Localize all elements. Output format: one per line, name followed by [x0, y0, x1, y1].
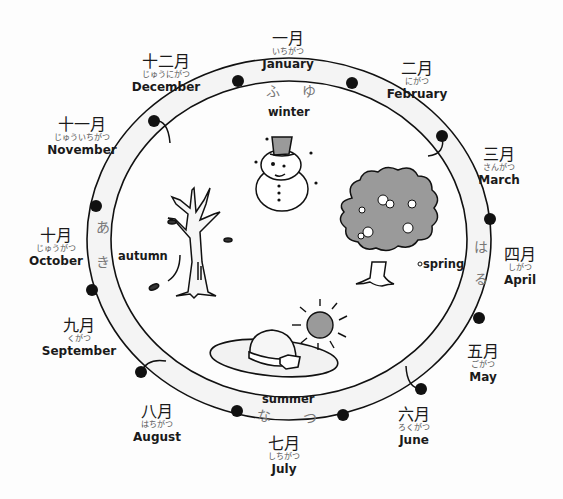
month-label-august: 八月 はちがつ August — [133, 404, 181, 443]
month-kanji: 一月 — [262, 31, 314, 47]
month-kana: ろくがつ — [398, 424, 430, 432]
winter-hira-2: ゆ — [302, 80, 316, 100]
month-kanji: 五月 — [467, 344, 499, 360]
spring-hira-1: は — [474, 236, 488, 256]
snowman-icon — [254, 137, 317, 211]
month-label-september: 九月 くがつ September — [42, 318, 116, 357]
month-label-march: 三月 さんがつ March — [478, 147, 520, 186]
month-kana: じゅういちがつ — [47, 134, 116, 142]
season-label-spring: spring — [423, 257, 464, 271]
month-kana: はちがつ — [133, 421, 181, 429]
month-label-april: 四月 しがつ April — [504, 247, 536, 286]
month-english: May — [467, 371, 499, 383]
month-kana: ごがつ — [467, 361, 499, 369]
month-label-may: 五月 ごがつ May — [467, 344, 499, 383]
season-label-summer: summer — [262, 392, 314, 406]
month-kanji: 八月 — [133, 404, 181, 420]
month-kanji: 六月 — [398, 407, 430, 423]
spring-hira-2: る — [474, 268, 488, 288]
summer-hira-2: つ — [303, 407, 317, 427]
season-label-autumn: autumn — [118, 249, 168, 263]
autumn-hira-1: あ — [96, 216, 110, 236]
month-label-july: 七月 しちがつ July — [268, 436, 300, 475]
bare-tree-icon — [148, 188, 232, 298]
month-label-october: 十月 じゅうがつ October — [29, 228, 83, 267]
month-kana: くがつ — [42, 335, 116, 343]
month-label-february: 二月 にがつ February — [387, 61, 448, 100]
month-kanji: 九月 — [42, 318, 116, 334]
summer-hira-1: な — [257, 405, 271, 425]
month-kanji: 四月 — [504, 247, 536, 263]
month-kana: いちがつ — [262, 48, 314, 56]
month-english: March — [478, 174, 520, 186]
month-english: June — [398, 434, 430, 446]
sun-icon — [292, 299, 347, 350]
month-english: November — [47, 144, 116, 156]
month-english: September — [42, 345, 116, 357]
month-english: April — [504, 274, 536, 286]
month-kana: しちがつ — [268, 453, 300, 461]
month-english: July — [268, 463, 300, 475]
month-label-december: 十二月 じゅうにがつ December — [132, 54, 201, 93]
month-kanji: 三月 — [478, 147, 520, 163]
spring-marker-dot — [418, 262, 422, 266]
month-label-november: 十一月 じゅういちがつ November — [47, 117, 116, 156]
month-kana: じゅうがつ — [29, 245, 83, 253]
month-label-january: 一月 いちがつ January — [262, 31, 314, 70]
month-kanji: 十月 — [29, 228, 83, 244]
month-kanji: 十二月 — [132, 54, 201, 70]
month-kanji: 七月 — [268, 436, 300, 452]
month-kanji: 二月 — [387, 61, 448, 77]
month-english: August — [133, 431, 181, 443]
month-kanji: 十一月 — [47, 117, 116, 133]
month-english: December — [132, 81, 201, 93]
autumn-hira-2: き — [96, 251, 110, 271]
month-kana: さんがつ — [478, 164, 520, 172]
month-kana: にがつ — [387, 78, 448, 86]
season-label-winter: winter — [268, 105, 310, 119]
month-english: October — [29, 255, 83, 267]
month-english: January — [262, 58, 314, 70]
month-kana: じゅうにがつ — [132, 71, 201, 79]
month-english: February — [387, 88, 448, 100]
month-kana: しがつ — [504, 264, 536, 272]
winter-hira-1: ふ — [266, 80, 280, 100]
month-label-june: 六月 ろくがつ June — [398, 407, 430, 446]
